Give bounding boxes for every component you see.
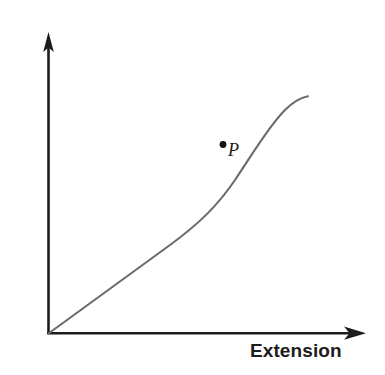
x-axis-label: Extension (250, 340, 342, 362)
y-axis-label: Force (0, 71, 55, 93)
graph-canvas (0, 0, 385, 375)
point-p-dot (220, 141, 227, 148)
force-extension-curve (49, 96, 309, 333)
point-p-label: P (228, 140, 239, 160)
force-extension-figure: Force Extension P (0, 0, 385, 375)
